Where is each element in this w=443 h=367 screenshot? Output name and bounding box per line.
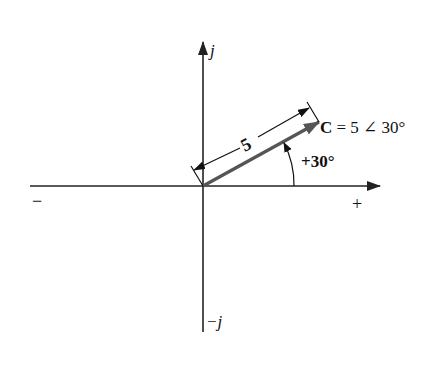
negative-real-label: −: [32, 191, 42, 211]
vector-label: C = 5 ∠ 30°: [320, 118, 405, 137]
angle-label: +30°: [301, 152, 335, 171]
dimension-line-lower: [194, 148, 240, 170]
negative-imaginary-label: −j: [206, 312, 222, 331]
magnitude-label: 5: [237, 134, 254, 156]
positive-real-label: +: [352, 194, 362, 214]
vector-label-value: = 5 ∠ 30°: [332, 118, 405, 137]
phasor-diagram: j −j − + 5 C = 5 ∠ 30° +30°: [0, 0, 443, 367]
vector-label-name: C: [320, 118, 332, 137]
positive-imaginary-label: j: [208, 41, 215, 60]
angle-arc: [284, 143, 294, 186]
dimension-extension-end: [307, 102, 319, 122]
